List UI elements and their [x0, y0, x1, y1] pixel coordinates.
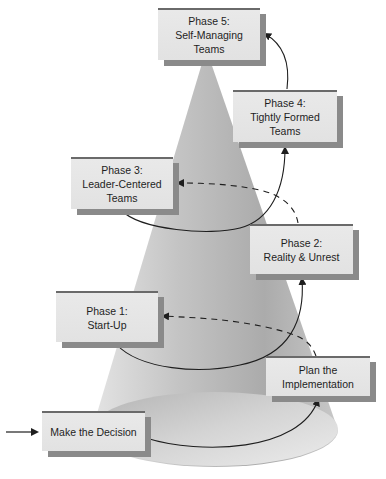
stage-label-line: Self-Managing: [175, 28, 243, 42]
stage-label-line: Teams: [270, 124, 301, 138]
stage-phase-3: Phase 3: Leader-Centered Teams: [71, 157, 173, 209]
stage-label-line: Make the Decision: [50, 425, 136, 439]
stage-phase-5: Phase 5: Self-Managing Teams: [158, 8, 260, 60]
stage-label-line: Teams: [107, 191, 138, 205]
stage-label-line: Phase 2:: [281, 236, 322, 250]
stage-label-line: Implementation: [282, 377, 354, 391]
stage-label-line: Leader-Centered: [82, 177, 161, 191]
stage-phase-2: Phase 2: Reality & Unrest: [250, 224, 353, 274]
stage-label-line: Plan the: [299, 363, 338, 377]
stage-label-line: Phase 5:: [188, 14, 229, 28]
stage-label-line: Start-Up: [87, 318, 126, 332]
stage-label-line: Reality & Unrest: [264, 250, 340, 264]
stage-phase-4: Phase 4: Tightly Formed Teams: [233, 90, 337, 142]
stage-phase-1: Phase 1: Start-Up: [56, 291, 158, 342]
stage-label-line: Phase 3:: [101, 163, 142, 177]
stage-label-line: Phase 4:: [264, 96, 305, 110]
stage-label-line: Phase 1:: [86, 304, 127, 318]
connector-phase4-to-phase5: [265, 34, 288, 89]
team-development-cone-diagram: Make the Decision Plan the Implementatio…: [0, 0, 386, 479]
stage-label-line: Tightly Formed: [250, 110, 320, 124]
stage-label-line: Teams: [194, 42, 225, 56]
stage-plan-implementation: Plan the Implementation: [266, 356, 370, 396]
stage-make-decision: Make the Decision: [42, 411, 145, 451]
